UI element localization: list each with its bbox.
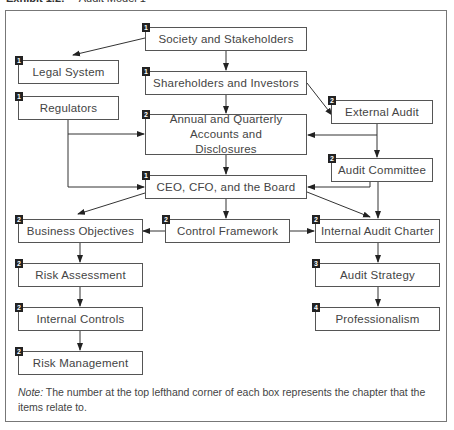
chapter-badge: 2 [328,154,336,163]
box-label: Professionalism [335,312,419,327]
box-external-audit: External Audit [331,100,433,124]
box-label: Internal Controls [37,312,125,327]
box-label: Society and Stakeholders [158,32,293,47]
box-label: Audit Strategy [340,268,415,283]
box-label: Risk Assessment [35,268,126,283]
chapter-badge: 1 [142,171,150,180]
box-label: CEO, CFO, and the Board [157,180,296,195]
note-prefix: Note: [18,386,43,398]
box-label: Risk Management [33,356,129,371]
box-audit-committee: Audit Committee [331,158,433,182]
chapter-badge: 2 [15,259,23,268]
box-label: Annual and Quarterly Accounts and Disclo… [158,112,294,157]
box-audit-strategy: Audit Strategy [315,263,440,287]
chapter-badge: 2 [142,110,150,119]
box-internal-audit-charter: Internal Audit Charter [315,219,440,243]
box-shareholders-investors: Shareholders and Investors [145,71,307,95]
chapter-badge: 2 [15,215,23,224]
box-label: Business Objectives [27,224,134,239]
box-business-objectives: Business Objectives [18,219,143,243]
chapter-badge: 2 [162,215,170,224]
box-risk-management: Risk Management [18,351,143,375]
box-label: Control Framework [177,224,278,239]
box-internal-controls: Internal Controls [18,307,143,331]
chapter-badge: 2 [328,96,336,105]
box-label: Audit Committee [338,163,426,178]
chapter-badge: 3 [312,259,320,268]
chapter-badge: 2 [15,303,23,312]
box-society-stakeholders: Society and Stakeholders [145,27,307,51]
chapter-badge: 2 [15,347,23,356]
box-risk-assessment: Risk Assessment [18,263,143,287]
box-label: Shareholders and Investors [153,76,299,91]
chapter-badge: 4 [312,303,320,312]
chapter-badge: 1 [15,56,23,65]
box-label: Internal Audit Charter [321,224,434,239]
box-ceo-cfo-board: CEO, CFO, and the Board [145,175,307,199]
box-regulators: Regulators [18,96,119,120]
chapter-badge: 2 [312,215,320,224]
box-label: Legal System [32,65,104,80]
box-annual-quarterly-accounts: Annual and Quarterly Accounts and Disclo… [145,114,307,155]
box-professionalism: Professionalism [315,307,440,331]
box-label: Regulators [40,101,98,116]
box-legal-system: Legal System [18,60,119,84]
chapter-badge: 1 [15,92,23,101]
chapter-badge: 1 [142,67,150,76]
box-control-framework: Control Framework [165,219,290,243]
note-text: The number at the top lefthand corner of… [18,386,425,413]
footnote: Note: The number at the top lefthand cor… [18,385,440,415]
box-label: External Audit [345,105,419,120]
chapter-badge: 1 [142,23,150,32]
